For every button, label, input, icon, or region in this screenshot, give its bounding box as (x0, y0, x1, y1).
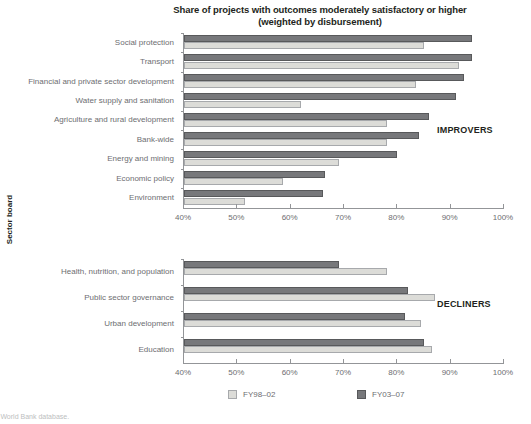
y-axis-tick (181, 169, 184, 170)
bar-FY0307 (184, 339, 424, 346)
chart-legend: FY98–02FY03–07 (0, 390, 531, 404)
x-tick-label: 70% (335, 368, 351, 377)
bar-FY0307 (184, 113, 429, 120)
bar-FY9802 (184, 320, 421, 327)
y-axis-tick (181, 91, 184, 92)
legend-swatch-icon (357, 390, 366, 399)
y-axis-tick (181, 130, 184, 131)
bar-FY9802 (184, 42, 424, 49)
y-axis-tick (181, 149, 184, 150)
bar-FY0307 (184, 54, 472, 61)
x-axis-line (183, 363, 504, 364)
bar-FY9802 (184, 346, 432, 353)
x-tick-label: 100% (493, 368, 513, 377)
legend-label: FY98–02 (243, 390, 275, 399)
y-axis-tick (181, 259, 184, 260)
bar-FY0307 (184, 74, 464, 81)
y-axis-tick (181, 72, 184, 73)
x-axis-tick (236, 204, 237, 208)
y-axis-tick (181, 188, 184, 189)
category-label: Health, nutrition, and population (61, 267, 174, 277)
x-axis-tick (183, 204, 184, 208)
category-label: Financial and private sector development (28, 77, 174, 87)
y-axis-tick (181, 52, 184, 53)
plot-area-improvers (183, 33, 504, 208)
y-axis-tick (181, 285, 184, 286)
x-tick-label: 50% (228, 368, 244, 377)
chart-title: Share of projects with outcomes moderate… (150, 4, 490, 28)
x-axis-tick (450, 204, 451, 208)
category-label: Public sector governance (84, 293, 174, 303)
plot-area-decliners (183, 259, 504, 363)
chart-figure: Share of projects with outcomes moderate… (0, 0, 531, 424)
bar-FY9802 (184, 159, 339, 166)
x-tick-label: 80% (388, 213, 404, 222)
category-label: Water supply and sanitation (76, 96, 174, 106)
chart-title-line-2: (weighted by disbursement) (150, 16, 490, 28)
category-label: Bank-wide (137, 135, 174, 145)
category-label: Agriculture and rural development (54, 115, 174, 125)
x-tick-label: 40% (175, 368, 191, 377)
x-tick-label: 90% (442, 368, 458, 377)
x-tick-label: 90% (442, 213, 458, 222)
y-axis-tick (181, 33, 184, 34)
legend-item[interactable]: FY03–07 (357, 390, 404, 399)
bar-FY9802 (184, 101, 301, 108)
bar-FY0307 (184, 261, 339, 268)
x-axis-tick (343, 204, 344, 208)
group-annotation-decliners: DECLINERS (437, 299, 491, 309)
bar-FY0307 (184, 313, 405, 320)
x-tick-label: 60% (282, 368, 298, 377)
x-axis-tick (290, 204, 291, 208)
x-axis-tick (343, 359, 344, 363)
category-label: Transport (140, 57, 174, 67)
bar-FY9802 (184, 120, 387, 127)
y-axis-tick (181, 311, 184, 312)
x-tick-label: 80% (388, 368, 404, 377)
group-annotation-improvers: IMPROVERS (437, 125, 493, 135)
x-axis-tick (396, 359, 397, 363)
bar-FY0307 (184, 151, 397, 158)
bar-FY9802 (184, 268, 387, 275)
y-axis-tick (181, 111, 184, 112)
category-label: Urban development (104, 319, 174, 329)
category-label: Environment (129, 193, 174, 203)
bar-FY9802 (184, 81, 416, 88)
bar-FY9802 (184, 178, 283, 185)
x-axis-tick (290, 359, 291, 363)
bar-FY0307 (184, 190, 323, 197)
x-tick-label: 60% (282, 213, 298, 222)
x-tick-label: 40% (175, 213, 191, 222)
x-axis-tick (503, 359, 504, 363)
source-note: s: World Bank database. (0, 413, 69, 420)
x-tick-label: 50% (228, 213, 244, 222)
y-axis-label: Sector board (5, 190, 14, 250)
x-axis-tick (183, 359, 184, 363)
category-label: Energy and mining (107, 154, 174, 164)
x-axis-tick (503, 204, 504, 208)
legend-item[interactable]: FY98–02 (228, 390, 275, 399)
bar-FY9802 (184, 139, 387, 146)
x-axis-tick (236, 359, 237, 363)
bar-FY0307 (184, 171, 325, 178)
x-axis-tick (450, 359, 451, 363)
bar-FY0307 (184, 93, 456, 100)
chart-title-line-1: Share of projects with outcomes moderate… (150, 4, 490, 16)
bar-FY0307 (184, 287, 408, 294)
category-label: Economic policy (116, 174, 174, 184)
x-axis-line (183, 208, 504, 209)
bar-FY0307 (184, 35, 472, 42)
bar-FY9802 (184, 62, 459, 69)
y-axis-tick (181, 337, 184, 338)
legend-label: FY03–07 (372, 390, 404, 399)
x-axis-tick (396, 204, 397, 208)
x-tick-label: 100% (493, 213, 513, 222)
category-label: Education (138, 345, 174, 355)
category-label: Social protection (115, 38, 174, 48)
bar-FY9802 (184, 294, 435, 301)
bar-FY0307 (184, 132, 419, 139)
legend-swatch-icon (228, 390, 237, 399)
x-tick-label: 70% (335, 213, 351, 222)
